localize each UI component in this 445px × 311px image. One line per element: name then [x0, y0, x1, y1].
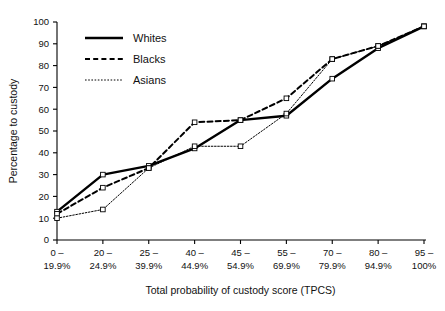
data-point-marker	[284, 96, 289, 101]
x-tick-label-range-end: 24.9%	[89, 260, 116, 271]
data-point-marker	[192, 120, 197, 125]
data-point-marker	[101, 207, 106, 212]
x-tick-label-range-start: 45 –	[231, 247, 250, 258]
legend-label-whites: Whites	[133, 32, 167, 44]
data-point-marker	[101, 172, 106, 177]
data-point-marker	[376, 44, 381, 49]
data-point-marker	[238, 144, 243, 149]
legend: WhitesBlacksAsians	[85, 32, 167, 86]
y-tick-label: 70	[38, 82, 49, 93]
x-tick-label-range-end: 44.9%	[181, 260, 208, 271]
x-tick-label-range-start: 70 –	[323, 247, 342, 258]
series-group	[55, 24, 427, 220]
x-tick-label-range-start: 80 –	[369, 247, 388, 258]
x-tick-label-range-start: 55 –	[277, 247, 296, 258]
data-point-marker	[284, 111, 289, 116]
data-point-marker	[101, 185, 106, 190]
x-tick-label-range-end: 19.9%	[44, 260, 71, 271]
x-tick-label-range-end: 94.9%	[365, 260, 392, 271]
x-tick-label-range-end: 79.9%	[319, 260, 346, 271]
x-tick-label-range-start: 25 –	[140, 247, 159, 258]
x-tick-label-range-end: 39.9%	[135, 260, 162, 271]
x-tick-label-range-start: 40 –	[185, 247, 204, 258]
y-tick-label: 30	[38, 169, 49, 180]
y-axis-title: Percentage to custody	[7, 78, 19, 183]
data-point-marker	[422, 24, 427, 29]
data-point-marker	[55, 216, 60, 221]
data-point-marker	[146, 166, 151, 171]
x-tick-label-range-end: 100%	[412, 260, 437, 271]
line-chart: 01020304050607080901000 –19.9%20 –24.9%2…	[0, 0, 445, 311]
x-tick-label-range-start: 0 –	[50, 247, 64, 258]
x-tick-label-range-start: 20 –	[94, 247, 113, 258]
x-tick-label-range-end: 69.9%	[273, 260, 300, 271]
y-tick-label: 10	[38, 213, 49, 224]
axes: 01020304050607080901000 –19.9%20 –24.9%2…	[33, 16, 437, 271]
chart-figure: 01020304050607080901000 –19.9%20 –24.9%2…	[0, 0, 445, 311]
y-tick-label: 60	[38, 104, 49, 115]
legend-label-asians: Asians	[133, 74, 167, 86]
y-tick-label: 100	[33, 16, 49, 27]
y-tick-label: 90	[38, 38, 49, 49]
y-tick-label: 80	[38, 60, 49, 71]
data-point-marker	[238, 118, 243, 123]
y-tick-label: 50	[38, 125, 49, 136]
data-point-marker	[330, 76, 335, 81]
y-tick-label: 0	[44, 234, 49, 245]
x-tick-label-range-start: 95 –	[415, 247, 434, 258]
x-axis-title: Total probability of custody score (TPCS…	[145, 284, 335, 296]
data-point-marker	[330, 57, 335, 62]
data-point-marker	[192, 144, 197, 149]
x-tick-label-range-end: 54.9%	[227, 260, 254, 271]
legend-label-blacks: Blacks	[133, 53, 166, 65]
y-tick-label: 20	[38, 191, 49, 202]
y-tick-label: 40	[38, 147, 49, 158]
